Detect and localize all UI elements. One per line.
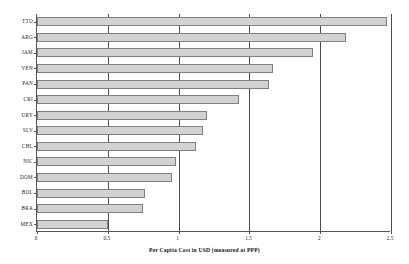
y-axis-tick-label: URY [21, 113, 33, 118]
y-axis-tick-label: NIC [23, 159, 33, 164]
y-axis-tick-label: CRI [23, 97, 33, 102]
bar-row: JAM [37, 45, 390, 61]
bar [37, 33, 346, 42]
bar [37, 142, 196, 151]
x-axis-tick [391, 231, 392, 234]
y-axis-tick-label: CHL [22, 144, 33, 149]
plot-area: TTOARGJAMVENPANCRIURYSLVCHLNICDOMBOLBRAM… [36, 14, 390, 232]
bar-row: VEN [37, 61, 390, 77]
bar [37, 126, 203, 135]
x-axis-tick-label: 1.5 [245, 236, 251, 241]
y-axis-tick [34, 193, 37, 194]
bar-row: CRI [37, 92, 390, 108]
bar-row: TTO [37, 14, 390, 30]
x-axis-tick-label: 2.5 [387, 236, 393, 241]
bar-row: BRA [37, 201, 390, 217]
bar-row: URY [37, 107, 390, 123]
bar-row: PAN [37, 76, 390, 92]
bar-row: NIC [37, 154, 390, 170]
y-axis-tick [34, 224, 37, 225]
y-axis-tick [34, 177, 37, 178]
bar [37, 80, 269, 89]
bar-row: CHL [37, 139, 390, 155]
y-axis-tick-label: ARG [21, 35, 33, 40]
bar-row: MEX [37, 216, 390, 232]
y-axis-tick [34, 131, 37, 132]
bar [37, 173, 172, 182]
y-axis-tick [34, 37, 37, 38]
y-axis-tick [34, 68, 37, 69]
y-axis-tick-label: SLV [23, 128, 33, 133]
bar [37, 64, 273, 73]
bar [37, 157, 176, 166]
bar-row: BOL [37, 185, 390, 201]
y-axis-tick [34, 84, 37, 85]
y-axis-tick-label: DOM [20, 175, 33, 180]
bar [37, 95, 239, 104]
y-axis-tick [34, 209, 37, 210]
x-axis-tick-label: 2 [318, 236, 321, 241]
bar-row: SLV [37, 123, 390, 139]
bar [37, 220, 108, 229]
y-axis-tick [34, 162, 37, 163]
y-axis-tick-label: VEN [21, 66, 33, 71]
x-axis-tick-label: 0 [35, 236, 38, 241]
y-axis-tick-label: MEX [21, 222, 33, 227]
bar [37, 48, 313, 57]
bar [37, 111, 207, 120]
x-axis-tick-label: 1 [176, 236, 179, 241]
y-axis-tick-label: PAN [22, 81, 33, 86]
gridline [391, 14, 392, 231]
bar [37, 189, 145, 198]
bar [37, 17, 387, 26]
x-axis-tick-label: 0.5 [104, 236, 110, 241]
x-axis-title: Per Capita Cost in USD (measured at PPP) [0, 248, 409, 254]
y-axis-tick-label: BOL [22, 190, 33, 195]
bar-chart: TTOARGJAMVENPANCRIURYSLVCHLNICDOMBOLBRAM… [0, 0, 409, 264]
bar-row: ARG [37, 30, 390, 46]
y-axis-tick-label: TTO [22, 19, 33, 24]
y-axis-tick [34, 115, 37, 116]
y-axis-tick-label: BRA [21, 206, 33, 211]
y-axis-tick [34, 146, 37, 147]
y-axis-tick [34, 53, 37, 54]
y-axis-tick [34, 22, 37, 23]
bar-row: DOM [37, 170, 390, 186]
y-axis-tick [34, 100, 37, 101]
y-axis-tick-label: JAM [22, 50, 33, 55]
bar [37, 204, 143, 213]
